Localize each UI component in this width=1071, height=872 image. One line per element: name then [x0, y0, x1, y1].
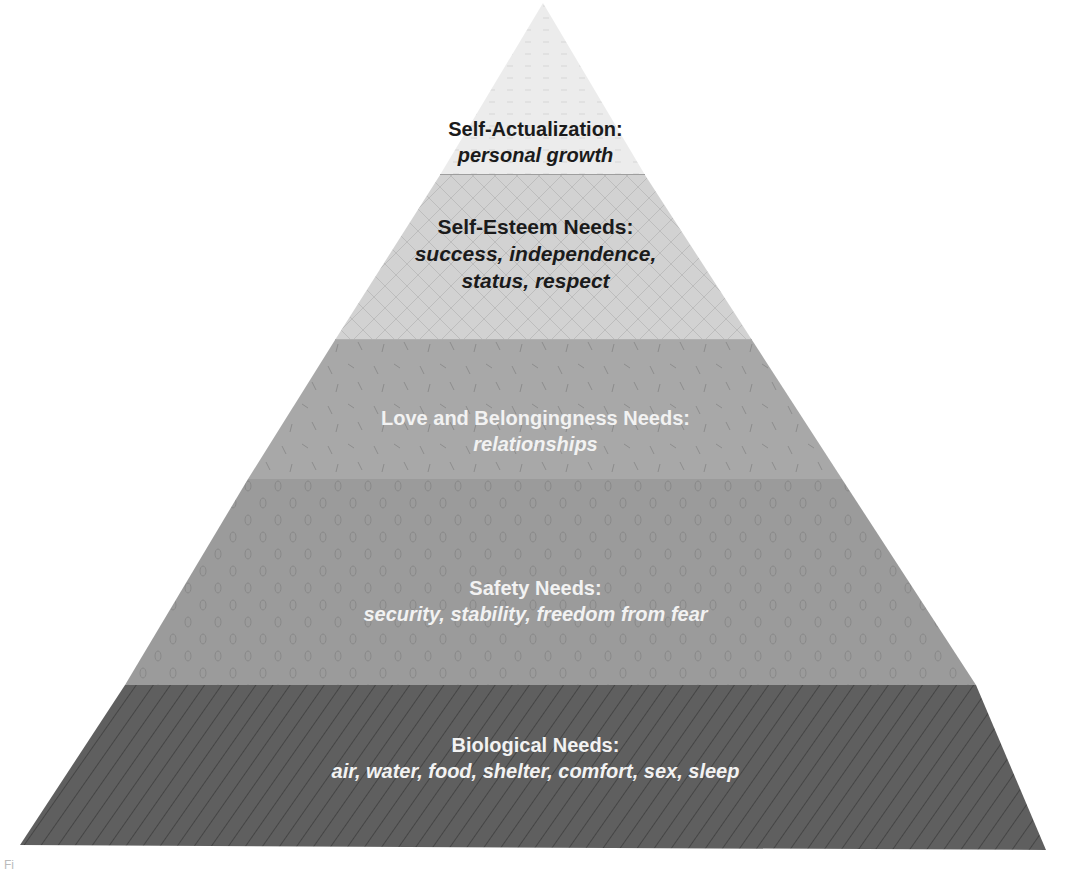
- level-title: Love and Belongingness Needs:: [0, 406, 1071, 432]
- level-biological-label: Biological Needs: air, water, food, shel…: [0, 733, 1071, 784]
- level-subtitle: personal growth: [0, 143, 1071, 169]
- level-subtitle: air, water, food, shelter, comfort, sex,…: [0, 759, 1071, 785]
- level-subtitle: relationships: [0, 432, 1071, 458]
- figure-caption-fragment: Fi: [4, 858, 14, 872]
- level-safety-label: Safety Needs: security, stability, freed…: [0, 576, 1071, 627]
- level-self-actualization-label: Self-Actualization: personal growth: [0, 117, 1071, 168]
- level-subtitle: security, stability, freedom from fear: [0, 602, 1071, 628]
- level-self-esteem-label: Self-Esteem Needs: success, independence…: [0, 214, 1071, 295]
- level-title: Biological Needs:: [0, 733, 1071, 759]
- level-subtitle-line-2: status, respect: [0, 268, 1071, 295]
- level-title: Self-Actualization:: [0, 117, 1071, 143]
- level-love-belongingness-label: Love and Belongingness Needs: relationsh…: [0, 406, 1071, 457]
- level-title: Safety Needs:: [0, 576, 1071, 602]
- level-subtitle-line-1: success, independence,: [0, 241, 1071, 268]
- level-title: Self-Esteem Needs:: [0, 214, 1071, 241]
